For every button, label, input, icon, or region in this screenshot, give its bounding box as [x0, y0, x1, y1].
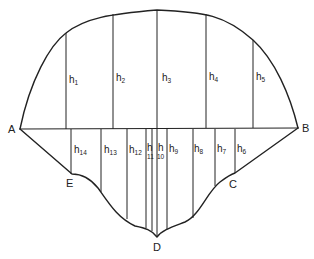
svg-text:h4: h4 — [209, 71, 219, 83]
svg-text:h12: h12 — [129, 144, 142, 156]
point-label-E: E — [66, 177, 73, 189]
svg-text:h5: h5 — [256, 71, 266, 83]
svg-text:h6: h6 — [237, 143, 247, 155]
point-label-B: B — [302, 122, 309, 134]
svg-text:h8: h8 — [194, 143, 204, 155]
area-ordinate-diagram: A B C D E h1 h2 h3 h4 h5 h14 h13 h12 h 1… — [0, 0, 314, 259]
upper-boundary-curve — [20, 10, 298, 129]
baseline-AB — [20, 128, 298, 129]
svg-text:h1: h1 — [69, 74, 79, 86]
svg-text:h13: h13 — [104, 144, 117, 156]
svg-text:h2: h2 — [116, 72, 126, 84]
svg-text:h: h — [158, 142, 164, 153]
upper-h-labels: h1 h2 h3 h4 h5 — [69, 71, 266, 86]
svg-text:h9: h9 — [169, 143, 179, 155]
svg-text:h14: h14 — [74, 144, 87, 156]
svg-text:11: 11 — [147, 153, 154, 160]
lower-ordinates — [71, 129, 235, 237]
upper-ordinates — [66, 10, 253, 129]
svg-text:10: 10 — [157, 153, 165, 160]
lower-h-labels: h14 h13 h12 h 11 h 10 h9 h8 h7 h6 — [74, 142, 247, 160]
point-label-C: C — [229, 178, 237, 190]
point-label-A: A — [8, 123, 16, 135]
svg-text:h3: h3 — [162, 72, 172, 84]
point-label-D: D — [153, 241, 161, 253]
svg-text:h7: h7 — [217, 143, 227, 155]
svg-text:h: h — [147, 142, 153, 153]
